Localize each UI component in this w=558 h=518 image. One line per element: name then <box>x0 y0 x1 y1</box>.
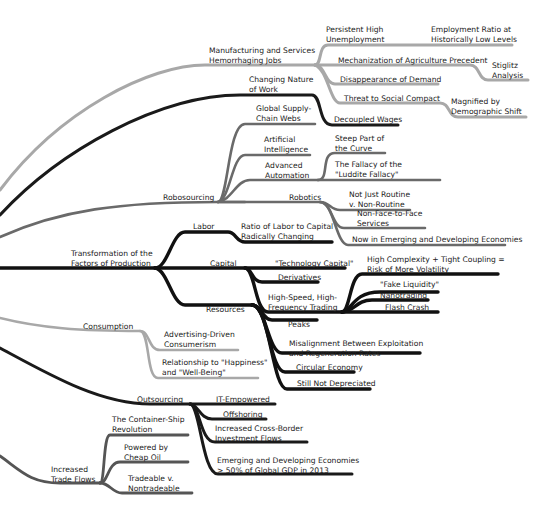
node-emerging-gdp[interactable]: Emerging and Developing Economies> 50% o… <box>217 456 359 475</box>
node-advanced-automation[interactable]: AdvancedAutomation <box>265 161 309 180</box>
node-now-emerging[interactable]: Now in Emerging and Developing Economies <box>352 235 522 245</box>
node-ratio-labor-capital[interactable]: Ratio of Labor to CapitalRadically Chang… <box>241 222 333 241</box>
node-still-not-depreciated[interactable]: Still Not Depreciated <box>297 379 376 389</box>
node-robotics[interactable]: Robotics <box>289 193 321 203</box>
node-non-face[interactable]: Non-Face-to-FaceServices <box>357 209 422 228</box>
node-outsourcing[interactable]: Outsourcing <box>137 395 183 405</box>
node-labor[interactable]: Labor <box>193 222 214 232</box>
node-cross-border[interactable]: Increased Cross-BorderInvestment Flows <box>215 424 303 443</box>
node-manufacturing[interactable]: Manufacturing and ServicesHemorrhaging J… <box>209 46 315 65</box>
node-it-empowered[interactable]: IT-Empowered <box>216 395 270 405</box>
node-cheap-oil[interactable]: Powered byCheap Oil <box>124 443 168 462</box>
node-technology-capital[interactable]: "Technology Capital" <box>275 259 354 269</box>
node-disappearance-demand[interactable]: Disappearance of Demand <box>340 75 441 85</box>
node-offshoring[interactable]: Offshoring <box>223 410 263 420</box>
node-steep-curve[interactable]: Steep Part ofthe Curve <box>335 134 384 153</box>
mind-map: Manufacturing and ServicesHemorrhaging J… <box>0 0 558 518</box>
node-changing-nature[interactable]: Changing Natureof Work <box>249 75 313 94</box>
node-robosourcing[interactable]: Robosourcing <box>163 193 214 203</box>
node-capital[interactable]: Capital <box>210 259 237 269</box>
node-peaks[interactable]: Peaks <box>288 320 310 330</box>
node-luddite-fallacy[interactable]: The Fallacy of the"Luddite Fallacy" <box>335 160 402 179</box>
node-hft[interactable]: High-Speed, High-Frequency Trading <box>268 293 338 312</box>
node-circular-economy[interactable]: Circular Economy <box>296 363 363 373</box>
node-misalignment[interactable]: Misalignment Between Exploitationand Reg… <box>289 339 423 358</box>
node-magnified-demographic[interactable]: Magnified byDemographic Shift <box>451 97 522 116</box>
node-tradeable[interactable]: Tradeable v.Nontradeable <box>128 474 180 493</box>
node-derivatives[interactable]: Derivatives <box>278 273 321 283</box>
node-nanotrading[interactable]: Nanotrading <box>380 291 427 301</box>
node-advertising[interactable]: Advertising-DrivenConsumerism <box>164 330 235 349</box>
node-global-supply[interactable]: Global Supply-Chain Webs <box>256 104 311 123</box>
node-consumption[interactable]: Consumption <box>83 322 133 332</box>
node-persistent-unemployment[interactable]: Persistent HighUnemployment <box>326 25 384 44</box>
node-mechanization[interactable]: Mechanization of Agriculture Precedent <box>338 56 488 66</box>
node-transformation[interactable]: Transformation of theFactors of Producti… <box>71 249 153 268</box>
node-employment-ratio[interactable]: Employment Ratio atHistorically Low Leve… <box>431 25 517 44</box>
node-not-just-routine[interactable]: Not Just Routinev. Non-Routine <box>349 190 410 209</box>
node-relationship-happiness[interactable]: Relationship to "Happiness"and "Well-Bei… <box>162 358 268 377</box>
node-trade-flows[interactable]: IncreasedTrade Flows <box>51 465 96 484</box>
node-flash-crash[interactable]: Flash Crash <box>385 303 429 313</box>
node-ai[interactable]: ArtificialIntelligence <box>264 135 308 154</box>
node-fake-liquidity[interactable]: "Fake Liquidity" <box>380 280 439 290</box>
node-stiglitz[interactable]: StiglitzAnalysis <box>492 61 523 80</box>
node-decoupled-wages[interactable]: Decoupled Wages <box>334 115 402 125</box>
node-resources[interactable]: Resources <box>206 305 245 315</box>
node-container-ship[interactable]: The Container-ShipRevolution <box>112 415 184 434</box>
node-high-complexity[interactable]: High Complexity + Tight Coupling =Risk o… <box>367 255 505 274</box>
node-threat-social-compact[interactable]: Threat to Social Compact <box>344 94 440 104</box>
